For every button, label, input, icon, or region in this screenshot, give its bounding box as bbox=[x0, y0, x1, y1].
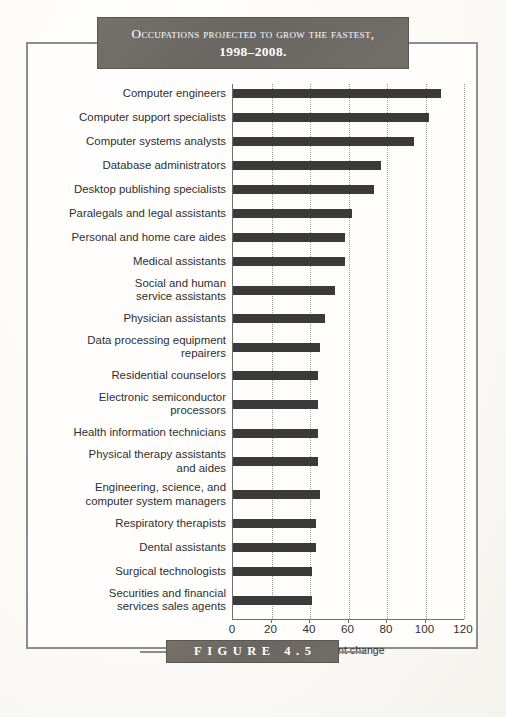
bar bbox=[233, 89, 441, 98]
figure-caption-text: FIGURE 4.5 bbox=[189, 644, 317, 659]
x-tickmark-100 bbox=[425, 619, 426, 623]
bar bbox=[233, 209, 352, 218]
category-label: Health information technicians bbox=[32, 426, 226, 439]
category-label: Computer systems analysts bbox=[32, 135, 226, 148]
category-label: Data processing equipment repairers bbox=[32, 334, 226, 361]
category-label: Respiratory therapists bbox=[32, 517, 226, 530]
x-tickmark-80 bbox=[386, 619, 387, 623]
title-rule-left bbox=[26, 42, 98, 44]
caption-rule-left bbox=[140, 651, 167, 653]
gridline-120 bbox=[464, 84, 465, 619]
bar bbox=[233, 113, 429, 122]
bar bbox=[233, 233, 345, 242]
category-label: Personal and home care aides bbox=[32, 231, 226, 244]
bar bbox=[233, 457, 318, 466]
category-label: Desktop publishing specialists bbox=[32, 183, 226, 196]
caption-rule-right bbox=[338, 651, 366, 653]
x-tick-label-100: 100 bbox=[405, 622, 445, 635]
category-label: Social and human service assistants bbox=[32, 277, 226, 304]
category-label: Paralegals and legal assistants bbox=[32, 207, 226, 220]
figure-caption-banner: FIGURE 4.5 bbox=[166, 640, 339, 663]
x-tickmark-20 bbox=[271, 619, 272, 623]
bar bbox=[233, 343, 320, 352]
category-label: Residential counselors bbox=[32, 369, 226, 382]
bar bbox=[233, 314, 325, 323]
bar bbox=[233, 490, 320, 499]
bar bbox=[233, 400, 318, 409]
x-tick-label-20: 20 bbox=[251, 622, 291, 635]
bar bbox=[233, 429, 318, 438]
bar-chart: Computer engineersComputer support speci… bbox=[0, 0, 506, 717]
category-label: Computer engineers bbox=[32, 87, 226, 100]
x-tick-label-80: 80 bbox=[366, 622, 406, 635]
bar bbox=[233, 596, 312, 605]
plot-area bbox=[232, 84, 464, 620]
x-tick-label-60: 60 bbox=[328, 622, 368, 635]
x-tickmark-60 bbox=[348, 619, 349, 623]
bar bbox=[233, 185, 374, 194]
x-tick-label-40: 40 bbox=[289, 622, 329, 635]
bar bbox=[233, 286, 335, 295]
category-label: Engineering, science, and computer syste… bbox=[32, 481, 226, 508]
bar bbox=[233, 257, 345, 266]
x-tickmark-40 bbox=[309, 619, 310, 623]
category-label: Electronic semiconductor processors bbox=[32, 391, 226, 418]
bar bbox=[233, 161, 381, 170]
category-label: Computer support specialists bbox=[32, 111, 226, 124]
gridline-80 bbox=[387, 84, 388, 619]
bar bbox=[233, 137, 414, 146]
bar bbox=[233, 567, 312, 576]
category-label: Securities and financial services sales … bbox=[32, 587, 226, 614]
x-tick-label-120: 120 bbox=[443, 622, 483, 635]
bar bbox=[233, 371, 318, 380]
category-label: Medical assistants bbox=[32, 255, 226, 268]
gridline-100 bbox=[426, 84, 427, 619]
category-label: Physician assistants bbox=[32, 312, 226, 325]
figure-title-line-2: 1998–2008. bbox=[219, 43, 287, 60]
bar bbox=[233, 543, 316, 552]
title-rule-right bbox=[408, 42, 478, 44]
category-label: Physical therapy assistants and aides bbox=[32, 448, 226, 475]
category-labels: Computer engineersComputer support speci… bbox=[32, 84, 226, 619]
figure-title-line-1: Occupations projected to grow the fastes… bbox=[132, 26, 375, 41]
category-label: Surgical technologists bbox=[32, 565, 226, 578]
x-tick-label-0: 0 bbox=[212, 622, 252, 635]
category-label: Dental assistants bbox=[32, 541, 226, 554]
bar bbox=[233, 519, 316, 528]
figure-title-banner: Occupations projected to grow the fastes… bbox=[97, 17, 409, 69]
category-label: Database administrators bbox=[32, 159, 226, 172]
